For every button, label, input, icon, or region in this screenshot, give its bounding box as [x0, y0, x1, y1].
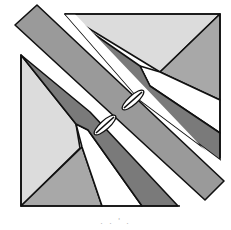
- figure-caption: . . ' .: [0, 216, 231, 226]
- quilt-block-diagram: [0, 0, 231, 230]
- diagram-stage: . . ' .: [0, 0, 231, 230]
